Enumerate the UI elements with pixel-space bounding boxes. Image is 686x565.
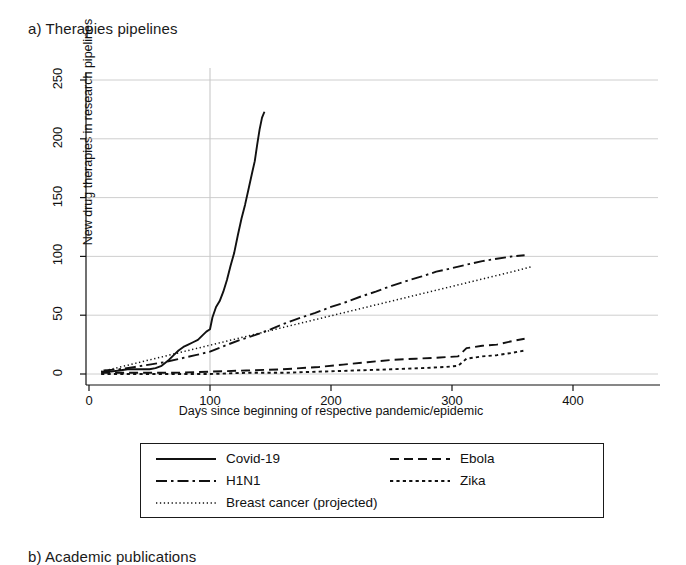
y-tick-label: 150 — [50, 179, 65, 213]
legend-label: Ebola — [460, 451, 495, 466]
axis-ticks — [80, 80, 573, 391]
legend-line-swatch — [155, 496, 217, 510]
x-tick-label: 100 — [185, 393, 235, 408]
legend-item-breast-cancer-projected[interactable]: Breast cancer (projected) — [155, 495, 378, 510]
y-tick-label: 100 — [50, 238, 65, 272]
legend-label: Covid-19 — [226, 451, 280, 466]
chart-legend: Covid-19H1N1Breast cancer (projected)Ebo… — [140, 443, 604, 518]
data-series-group — [101, 112, 531, 374]
legend-label: Zika — [460, 473, 486, 488]
x-tick-label: 200 — [306, 393, 356, 408]
legend-label: H1N1 — [226, 473, 261, 488]
series-line-covid-19 — [101, 112, 264, 372]
legend-line-swatch — [389, 474, 451, 488]
x-tick-label: 0 — [64, 393, 114, 408]
y-tick-label: 250 — [50, 62, 65, 96]
legend-label: Breast cancer (projected) — [226, 495, 378, 510]
legend-item-h1n1[interactable]: H1N1 — [155, 473, 261, 488]
y-tick-label: 200 — [50, 120, 65, 154]
axis-spines — [86, 72, 660, 385]
figure-panel-a: a) Therapies pipelines New drug therapie… — [0, 0, 686, 565]
legend-line-swatch — [389, 452, 451, 466]
x-tick-label: 300 — [427, 393, 477, 408]
series-line-ebola — [101, 339, 524, 373]
series-line-h1n1 — [104, 255, 525, 370]
y-tick-label: 0 — [50, 356, 65, 390]
legend-item-zika[interactable]: Zika — [389, 473, 486, 488]
next-panel-title: b) Academic publications — [28, 548, 196, 565]
x-tick-label: 400 — [548, 393, 598, 408]
legend-line-swatch — [155, 452, 217, 466]
series-line-breast-cancer-projected — [101, 267, 531, 372]
legend-item-ebola[interactable]: Ebola — [389, 451, 495, 466]
line-chart — [0, 0, 686, 440]
y-tick-label: 50 — [50, 297, 65, 331]
legend-item-covid-19[interactable]: Covid-19 — [155, 451, 280, 466]
gridlines — [86, 68, 658, 385]
legend-line-swatch — [155, 474, 217, 488]
